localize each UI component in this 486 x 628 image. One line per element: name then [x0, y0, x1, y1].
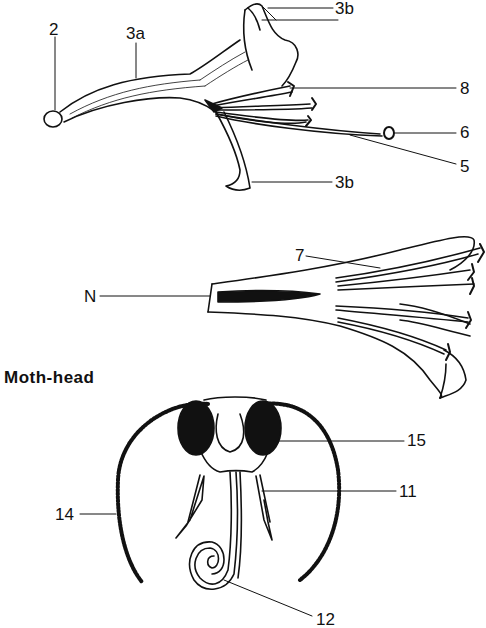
- label-corolla-tube: 3a: [126, 25, 145, 42]
- label-stamens: 7: [295, 247, 304, 264]
- flower-section-view: [208, 237, 484, 398]
- label-stigma: 2: [49, 21, 58, 38]
- moth-head: [118, 397, 339, 589]
- label-upper-lip: 3b: [335, 0, 354, 17]
- label-palp: 11: [399, 483, 417, 500]
- label-antenna: 14: [55, 506, 74, 523]
- label-style: 5: [460, 158, 469, 175]
- label-anther: 8: [460, 80, 469, 97]
- label-nectar: N: [84, 288, 96, 305]
- label-proboscis: 12: [316, 611, 335, 628]
- flower-side-view: [44, 4, 394, 190]
- label-lower-lip: 3b: [335, 174, 354, 191]
- label-stigma-tip: 6: [460, 124, 469, 141]
- diagram-canvas: [0, 0, 486, 628]
- section-title: Moth-head: [4, 368, 94, 388]
- label-compound-eye: 15: [407, 432, 426, 449]
